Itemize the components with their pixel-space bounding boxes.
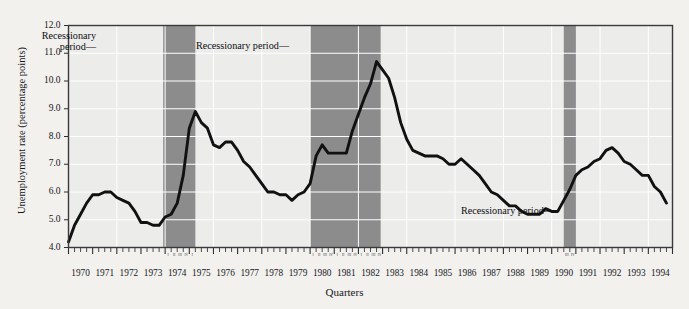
y-tick-label: 12.0 (27, 20, 61, 30)
x-tick-label: 1984 (410, 268, 429, 278)
quarter-label: IV (378, 253, 382, 257)
quarter-label: I (361, 253, 362, 257)
quarter-label: I (168, 253, 169, 257)
x-tick-label: 1994 (651, 268, 670, 278)
recession-annotation-3: Recessionary period— (461, 205, 554, 216)
x-tick-label: 1986 (458, 268, 477, 278)
x-tick-label: 1985 (434, 268, 453, 278)
x-tick-label: 1987 (482, 268, 501, 278)
quarter-label: II (173, 253, 176, 257)
x-tick-label: 1971 (95, 268, 114, 278)
x-tick-label: 1990 (554, 268, 573, 278)
x-tick-label: 1977 (240, 268, 259, 278)
y-tick-label: 7.0 (27, 158, 61, 168)
quarter-label: II (366, 253, 369, 257)
quarter-label: III (323, 253, 327, 257)
x-tick-label: 1988 (506, 268, 525, 278)
quarter-label: III (565, 253, 569, 257)
quarter-label: IV (354, 253, 358, 257)
unemployment-rate-chart: Unemployment rate (percentage points) Qu… (0, 0, 689, 309)
x-tick-label: 1979 (289, 268, 308, 278)
x-tick-label: 1974 (168, 268, 187, 278)
quarter-label: III (347, 253, 351, 257)
y-tick-label: 8.0 (27, 131, 61, 141)
x-tick-label: 1989 (530, 268, 549, 278)
x-tick-label: 1980 (313, 268, 332, 278)
quarter-label: IV (571, 253, 575, 257)
recession-annotation-1: Recessionaryperiod— (42, 30, 96, 53)
recession-annotation-line2: period— (42, 41, 96, 52)
y-tick-label: 5.0 (27, 214, 61, 224)
y-tick-label: 10.0 (27, 75, 61, 85)
x-tick-label: 1970 (71, 268, 90, 278)
quarter-label: IV (329, 253, 333, 257)
quarter-label: IV (184, 253, 188, 257)
quarter-label: I (192, 253, 193, 257)
recession-annotation-2: Recessionary period— (196, 40, 289, 51)
quarter-label: II (342, 253, 345, 257)
x-tick-label: 1993 (627, 268, 646, 278)
quarter-label: I (312, 253, 313, 257)
quarter-label: II (318, 253, 321, 257)
x-tick-label: 1972 (120, 268, 139, 278)
y-tick-label: 4.0 (27, 242, 61, 252)
x-tick-label: 1992 (603, 268, 622, 278)
quarter-label: III (178, 253, 182, 257)
x-tick-label: 1973 (144, 268, 163, 278)
x-tick-label: 1976 (216, 268, 235, 278)
x-tick-label: 1975 (192, 268, 211, 278)
y-tick-label: 9.0 (27, 103, 61, 113)
plot-canvas (0, 0, 689, 309)
x-tick-label: 1991 (579, 268, 598, 278)
x-tick-label: 1983 (385, 268, 404, 278)
quarter-label: III (372, 253, 376, 257)
quarter-label: I (337, 253, 338, 257)
x-tick-label: 1978 (265, 268, 284, 278)
x-tick-label: 1981 (337, 268, 356, 278)
x-tick-label: 1982 (361, 268, 380, 278)
y-tick-label: 6.0 (27, 186, 61, 196)
